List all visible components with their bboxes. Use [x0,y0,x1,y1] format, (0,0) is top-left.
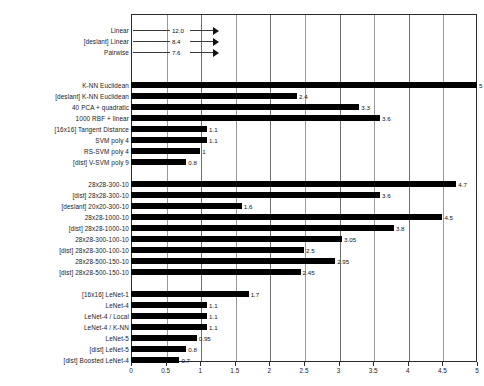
arrow-shaft [190,52,213,53]
x-tick [408,362,409,366]
bar-row-label: [deslant] Linear [0,36,129,47]
bar-row: 28x28-1000-104.5 [0,212,484,223]
bar [131,82,477,88]
bar-row: SVM poly 41.1 [0,135,484,146]
bar-track: 1.1 [131,300,477,311]
bar-value-label: 1.7 [249,289,260,300]
bar-row-label: [16x16] Tangent Distance [0,124,129,135]
x-tick [373,362,374,366]
bar [131,203,242,209]
bar-value-label: 3.05 [342,234,356,245]
bar-row-label: 28x28-300-100-10 [0,234,129,245]
bar [131,93,297,99]
row-spacer [0,69,484,80]
arrow-head-icon [213,38,219,46]
bar [131,335,197,341]
bar [131,192,380,198]
bar [131,324,207,330]
bar-track: 4.7 [131,179,477,190]
bar-track: 1.6 [131,201,477,212]
bar-row-label: [dist] LeNet-5 [0,344,129,355]
bar-track: 1.1 [131,311,477,322]
bar-row: LeNet-41.1 [0,300,484,311]
bar-row: K-NN Euclidean5 [0,80,484,91]
bar-value-label: 1.1 [207,322,218,333]
bar-row: [dist] 28x28-300-103.6 [0,190,484,201]
bar-row-label: [dist] 28x28-1000-10 [0,223,129,234]
bar-row: [deslant] 20x20-300-101.6 [0,201,484,212]
bar-value-label: 3.3 [359,102,370,113]
bar-row-label: 1000 RBF + linear [0,113,129,124]
bar-value-label: 1.1 [207,124,218,135]
bar-row-label: [deslant] 20x20-300-10 [0,201,129,212]
x-tick-label: 1 [198,367,202,374]
bar-row-label: LeNet-4 / Local [0,311,129,322]
bar-value-label: 4.5 [442,212,453,223]
bar-track: 1.1 [131,322,477,333]
bar-row-label: LeNet-4 / K-NN [0,322,129,333]
x-tick-label: 5 [475,367,479,374]
bar [131,269,301,275]
bar-value-label: 3.6 [380,190,391,201]
bar [131,126,207,132]
bar [131,346,186,352]
bar-value-label: 3.6 [380,113,391,124]
bar-value-label: 2.95 [335,256,349,267]
bar-row-label: [16x16] LeNet-1 [0,289,129,300]
bar-row: 1000 RBF + linear3.6 [0,113,484,124]
bar-value-label: 5 [477,80,482,91]
bar-rows: Linear12.0[deslant] Linear8.4Pairwise7.6… [0,14,484,366]
bar-row: 28x28-300-100-103.05 [0,234,484,245]
arrow-lead-line [133,41,170,42]
bar-row-label: [dist] Boosted LeNet-4 [0,355,129,366]
bar-row: [dist] V-SVM poly 90.8 [0,157,484,168]
bar [131,137,207,143]
bar-value-label: 1.1 [207,300,218,311]
x-tick-label: 4.5 [438,367,447,374]
bar [131,313,207,319]
x-axis: 00.511.522.533.544.55 [131,362,477,384]
row-spacer [0,168,484,179]
bar [131,214,442,220]
bar-track: 1.7 [131,289,477,300]
x-tick [235,362,236,366]
bar [131,115,380,121]
x-tick [477,362,478,366]
bar-row: [16x16] LeNet-11.7 [0,289,484,300]
bar-row: [dist] 28x28-1000-103.8 [0,223,484,234]
bar-track: 0.8 [131,157,477,168]
bar-value-label: 3.8 [394,223,405,234]
bar-row: [16x16] Tangent Distance1.1 [0,124,484,135]
bar-row-label: 28x28-1000-10 [0,212,129,223]
chart-canvas: Linear12.0[deslant] Linear8.4Pairwise7.6… [0,0,484,386]
bar-track: 2.4 [131,91,477,102]
x-tick-label: 1.5 [230,367,239,374]
bar-row: [dist] LeNet-50.8 [0,344,484,355]
bar [131,247,304,253]
x-tick-label: 2.5 [300,367,309,374]
bar-track: 1.1 [131,135,477,146]
x-tick-label: 4 [406,367,410,374]
bar [131,258,335,264]
x-tick [200,362,201,366]
bar-track: 7.6 [131,47,477,58]
bar-track: 0.95 [131,333,477,344]
bar-row-label: [dist] 28x28-300-100-10 [0,245,129,256]
bar-track: 8.4 [131,36,477,47]
bar-row-label: 28x28-500-150-10 [0,256,129,267]
bar-value-label: 8.4 [172,36,181,47]
bar-track: 1 [131,146,477,157]
bar-row: [deslant] Linear8.4 [0,36,484,47]
bar-value-label: 1.1 [207,135,218,146]
x-tick [304,362,305,366]
bar-track: 2.5 [131,245,477,256]
bar-row-label: Linear [0,25,129,36]
arrow-shaft [190,30,213,31]
bar-row: Pairwise7.6 [0,47,484,58]
bar-row: 40 PCA + quadratic3.3 [0,102,484,113]
bar-track: 3.05 [131,234,477,245]
bar-track: 12.0 [131,25,477,36]
bar-value-label: 1.1 [207,311,218,322]
bar-row-label: SVM poly 4 [0,135,129,146]
bar-track: 2.45 [131,267,477,278]
